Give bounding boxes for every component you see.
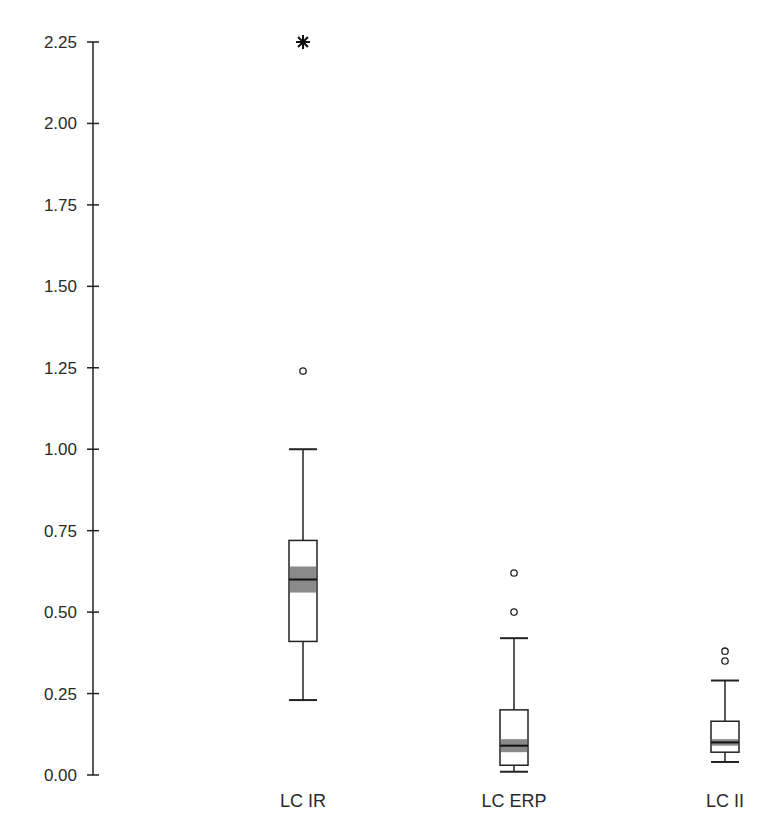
y-tick-label: 1.00 — [44, 440, 77, 459]
y-axis: 0.000.250.500.751.001.251.501.752.002.25 — [44, 33, 99, 785]
boxes — [289, 35, 739, 772]
y-tick-label: 1.50 — [44, 277, 77, 296]
y-tick-label: 2.25 — [44, 33, 77, 52]
y-tick-label: 1.75 — [44, 196, 77, 215]
outlier-circle-icon — [511, 609, 517, 615]
box-lc-ir — [289, 35, 317, 700]
x-axis-labels: LC IRLC ERPLC II — [280, 791, 744, 811]
iqr-box — [500, 710, 528, 765]
boxplot-chart: 0.000.250.500.751.001.251.501.752.002.25… — [0, 0, 771, 833]
outlier-circle-icon — [300, 368, 306, 374]
outlier-circle-icon — [722, 658, 728, 664]
y-tick-label: 1.25 — [44, 359, 77, 378]
box-lc-erp — [500, 570, 528, 772]
y-tick-label: 0.50 — [44, 603, 77, 622]
extreme-asterisk-icon — [296, 35, 310, 49]
box-lc-ii — [711, 648, 739, 762]
x-category-label: LC ERP — [481, 791, 546, 811]
x-category-label: LC IR — [280, 791, 326, 811]
iqr-box — [711, 721, 739, 752]
y-tick-label: 0.25 — [44, 685, 77, 704]
y-tick-label: 2.00 — [44, 114, 77, 133]
y-tick-label: 0.75 — [44, 522, 77, 541]
x-category-label: LC II — [706, 791, 744, 811]
outlier-circle-icon — [722, 648, 728, 654]
y-tick-label: 0.00 — [44, 766, 77, 785]
outlier-circle-icon — [511, 570, 517, 576]
